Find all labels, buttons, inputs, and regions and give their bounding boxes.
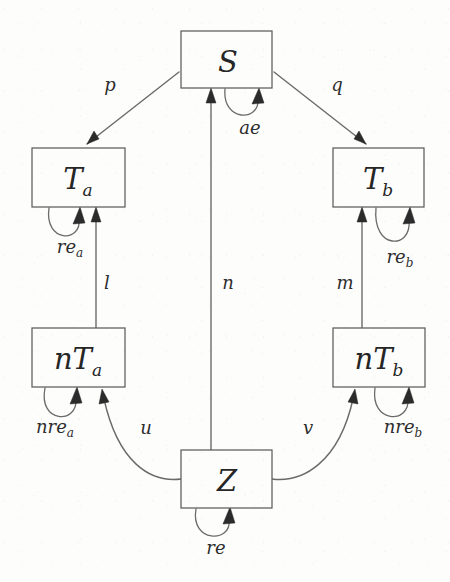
edge-n [206,88,216,450]
self-loop-reb-line [376,208,409,241]
edge-m-arrowhead [357,207,367,222]
node-Z-label: Z [216,464,238,498]
self-loop-re [195,507,235,536]
self-loop-rea-arrowhead [73,207,85,224]
self-loop-label-nrea: nrea [36,416,74,440]
self-loop-nrea-arrowhead [70,387,82,404]
node-nTa[interactable]: nTa [32,328,125,387]
self-loop-label-reb: reb [387,246,414,270]
self-loop-reb [376,207,415,241]
edge-label-l: l [104,272,110,293]
edge-m [357,207,367,328]
node-S-label: S [218,45,238,79]
self-loop-reb-arrowhead [403,207,415,224]
node-S[interactable]: S [181,31,272,88]
diagram-canvas: S Ta Tb nTa nTb Z [0,0,450,582]
edge-l-arrowhead [91,207,101,222]
self-loop-label-rea: rea [57,236,83,260]
edge-q-arrowhead [354,131,366,144]
self-loop-label-nreb: nreb [384,416,423,440]
self-loop-nrea [44,387,82,417]
edge-u-arrowhead [99,389,109,404]
edge-q-line [274,72,366,144]
self-loop-label-ae: ae [239,117,260,138]
edge-n-arrowhead [206,88,216,103]
node-Ta[interactable]: Ta [32,148,125,207]
edge-label-group: p q n l m u v [104,74,353,438]
node-Tb[interactable]: Tb [333,148,424,207]
edge-label-v: v [303,417,313,438]
edge-label-n: n [222,272,234,293]
edge-label-p: p [104,74,116,95]
node-group: S Ta Tb nTa nTb Z [32,31,425,508]
self-loop-label-re: re [206,537,225,558]
edge-v [272,389,358,479]
edge-l [91,207,101,328]
self-loop-ae [225,88,264,115]
edge-p-line [87,72,179,144]
edge-p-arrowhead [87,131,99,144]
edge-q [274,72,366,144]
edge-u-line [104,399,181,479]
edge-label-q: q [331,74,343,95]
edge-label-u: u [140,417,152,438]
edge-label-m: m [336,272,353,293]
edge-v-arrowhead [348,389,358,404]
self-loop-nreb [375,387,414,417]
self-loop-nreb-arrowhead [402,387,414,404]
edge-v-line [272,399,353,479]
node-Z[interactable]: Z [181,450,272,508]
self-loop-rea [49,207,85,236]
self-loop-ae-arrowhead [252,88,264,104]
state-transition-diagram: S Ta Tb nTa nTb Z [0,0,450,582]
self-loop-re-arrowhead [223,507,235,524]
node-nTb[interactable]: nTb [333,328,425,387]
edge-p [87,72,179,144]
